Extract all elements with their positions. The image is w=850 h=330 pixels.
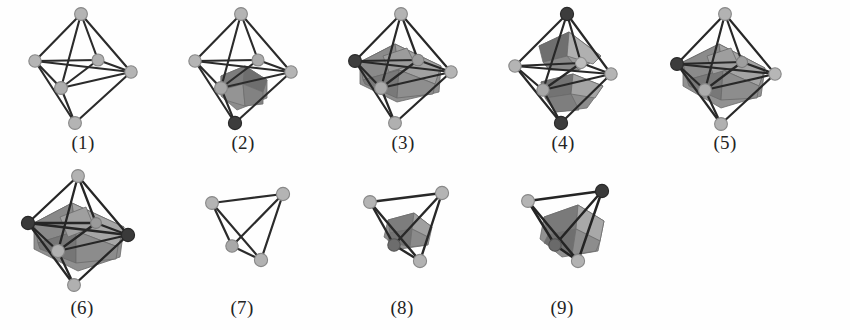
figure-label-3: (3) <box>391 132 414 154</box>
figure-label-4: (4) <box>551 132 574 154</box>
figure-label-6: (6) <box>70 297 93 319</box>
figure-item-empty-slot <box>642 165 802 330</box>
figure-label-8: (8) <box>390 297 413 319</box>
tetrahedron-diagram-9 <box>482 165 642 300</box>
figure-row-bottom: (6) (7) <box>0 165 850 330</box>
figure-row-top: (1) <box>0 0 850 165</box>
figure-item-5: (5) <box>645 0 805 165</box>
figure-item-1: (1) <box>3 0 163 165</box>
figure-item-9: (9) <box>482 165 642 330</box>
figure-item-4: (4) <box>483 0 643 165</box>
figure-plate: (1) <box>0 0 850 330</box>
edges-1 <box>35 14 131 123</box>
octahedron-diagram-3 <box>323 0 483 135</box>
octahedron-diagram-4 <box>483 0 643 135</box>
octahedron-diagram-2 <box>163 0 323 135</box>
figure-item-8: (8) <box>322 165 482 330</box>
tetrahedron-diagram-8 <box>322 165 482 300</box>
figure-item-6: (6) <box>2 165 162 330</box>
octahedron-diagram-1 <box>3 0 163 135</box>
figure-label-5: (5) <box>713 132 736 154</box>
octahedron-diagram-6 <box>2 165 162 300</box>
figure-item-3: (3) <box>323 0 483 165</box>
figure-item-2: (2) <box>163 0 323 165</box>
inner-solid-4-lower <box>541 74 603 112</box>
figure-item-7: (7) <box>162 165 322 330</box>
octahedron-diagram-5 <box>645 0 805 135</box>
figure-label-7: (7) <box>230 297 253 319</box>
figure-label-2: (2) <box>231 132 254 154</box>
edges-7 <box>212 194 283 260</box>
figure-label-1: (1) <box>71 132 94 154</box>
figure-label-9: (9) <box>550 297 573 319</box>
tetrahedron-diagram-7 <box>162 165 322 300</box>
